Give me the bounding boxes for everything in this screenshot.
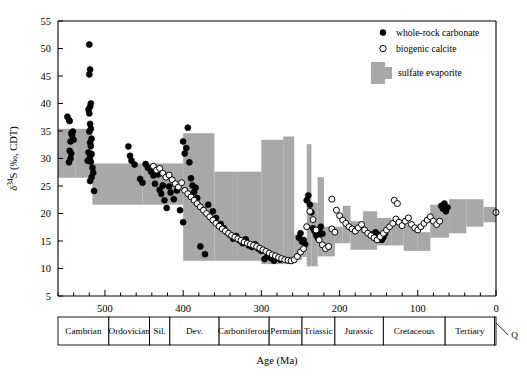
evaporite-segment bbox=[92, 163, 142, 204]
data-point bbox=[319, 231, 325, 237]
data-point bbox=[160, 182, 166, 188]
data-point bbox=[437, 218, 443, 224]
data-point bbox=[210, 208, 216, 214]
data-point bbox=[164, 205, 170, 211]
data-point bbox=[301, 246, 307, 252]
data-point bbox=[180, 138, 186, 144]
period-label: Tertiary bbox=[455, 326, 484, 336]
legend-label-whole-rock-carbonate: whole-rock carbonate bbox=[396, 27, 479, 38]
data-point bbox=[307, 208, 313, 214]
x-tick-label: 0 bbox=[493, 303, 498, 314]
data-point bbox=[329, 196, 335, 202]
data-point bbox=[171, 196, 177, 202]
data-point bbox=[359, 222, 365, 228]
y-tick-label: 5 bbox=[46, 291, 51, 302]
data-point bbox=[180, 219, 186, 225]
data-point bbox=[166, 184, 172, 190]
x-tick-label: 100 bbox=[410, 303, 426, 314]
period-cell-quaternary[interactable] bbox=[494, 317, 496, 345]
evaporite-segment bbox=[418, 232, 431, 251]
data-point bbox=[67, 118, 73, 124]
data-point bbox=[298, 230, 304, 236]
data-point bbox=[307, 202, 313, 208]
data-point bbox=[66, 159, 72, 165]
x-tick-label: 200 bbox=[332, 303, 348, 314]
data-point bbox=[86, 110, 92, 116]
evaporite-segment bbox=[261, 140, 283, 264]
period-label: Triassic bbox=[304, 326, 333, 336]
evaporite-segment bbox=[466, 199, 483, 227]
period-label: Sil. bbox=[153, 326, 166, 336]
data-point bbox=[177, 207, 183, 213]
y-tick-label: 40 bbox=[41, 98, 52, 109]
period-label: Cretaceous bbox=[394, 326, 435, 336]
svg-text:δ34S (‰, CDT): δ34S (‰, CDT) bbox=[6, 126, 21, 191]
period-label: Cambrian bbox=[65, 326, 102, 336]
data-point bbox=[332, 229, 338, 235]
data-point bbox=[313, 227, 319, 233]
y-tick-label: 45 bbox=[41, 71, 52, 82]
evaporite-segment bbox=[283, 137, 294, 265]
data-point bbox=[88, 143, 94, 149]
data-point bbox=[305, 192, 311, 198]
evaporite-segment bbox=[449, 199, 466, 233]
x-tick-label: 400 bbox=[175, 303, 191, 314]
legend-marker-open-circle bbox=[380, 45, 386, 51]
y-tick-label: 30 bbox=[41, 153, 52, 164]
data-point bbox=[186, 159, 192, 165]
data-point bbox=[91, 188, 97, 194]
data-point bbox=[202, 251, 208, 257]
chart-svg: 5101520253035404550555004003002001000δ34… bbox=[0, 0, 527, 380]
data-point bbox=[71, 137, 77, 143]
data-point bbox=[86, 71, 92, 77]
period-label: Carboniferous bbox=[218, 326, 271, 336]
legend-marker-filled-circle bbox=[380, 29, 386, 35]
quaternary-leader-line bbox=[496, 323, 508, 335]
data-point bbox=[140, 180, 146, 186]
period-label: Dev. bbox=[186, 326, 203, 336]
data-point bbox=[86, 42, 92, 48]
x-tick-label: 300 bbox=[253, 303, 269, 314]
data-point bbox=[205, 202, 211, 208]
data-point bbox=[405, 215, 411, 221]
y-tick-label: 20 bbox=[41, 208, 52, 219]
data-point bbox=[188, 175, 194, 181]
y-tick-label: 10 bbox=[41, 263, 52, 274]
legend-label-sulfate-evaporite: sulfate evaporite bbox=[398, 67, 462, 78]
data-point bbox=[185, 125, 191, 131]
data-point bbox=[152, 181, 158, 187]
period-label: Jurassic bbox=[345, 326, 374, 336]
data-point bbox=[304, 224, 310, 230]
x-tick-label: 500 bbox=[97, 303, 113, 314]
data-point bbox=[87, 178, 93, 184]
data-point bbox=[182, 151, 188, 157]
data-point bbox=[70, 129, 76, 135]
data-point bbox=[333, 207, 339, 213]
y-tick-label: 50 bbox=[41, 43, 52, 54]
x-axis-title: Age (Ma) bbox=[256, 355, 298, 367]
y-tick-label: 35 bbox=[41, 126, 52, 137]
legend-marker-gray-swatch bbox=[371, 62, 392, 84]
data-point bbox=[86, 129, 92, 135]
data-point bbox=[394, 201, 400, 207]
data-point bbox=[193, 185, 199, 191]
data-point bbox=[310, 217, 316, 223]
data-point bbox=[445, 204, 451, 210]
y-tick-label: 15 bbox=[41, 236, 52, 247]
data-point bbox=[85, 158, 91, 164]
y-tick-label: 55 bbox=[41, 16, 52, 27]
y-axis-title: δ34S (‰, CDT) bbox=[6, 126, 21, 191]
data-point bbox=[132, 162, 138, 168]
legend-label-biogenic-calcite: biogenic calcite bbox=[396, 43, 456, 54]
data-point bbox=[183, 145, 189, 151]
data-point bbox=[168, 190, 174, 196]
legend: whole-rock carbonatebiogenic calcitesulf… bbox=[371, 27, 479, 84]
data-point bbox=[125, 143, 131, 149]
geologic-timescale: CambrianOrdovicianSil.Dev.CarboniferousP… bbox=[58, 317, 518, 345]
data-point bbox=[161, 197, 167, 203]
data-point bbox=[326, 244, 332, 250]
y-tick-label: 25 bbox=[41, 181, 52, 192]
data-point bbox=[179, 180, 185, 186]
period-label: Permian bbox=[270, 326, 301, 336]
data-point bbox=[197, 244, 203, 250]
